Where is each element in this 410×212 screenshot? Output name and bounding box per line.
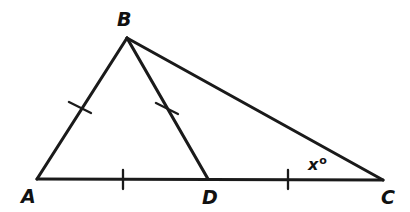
degree-symbol: o: [319, 154, 327, 167]
vertex-label-B: B: [117, 8, 131, 30]
svg-text:xo: xo: [307, 154, 327, 174]
angle-variable: x: [307, 155, 319, 174]
vertex-label-C: C: [381, 186, 395, 208]
geometry-figure: A B D C xo: [0, 0, 410, 212]
segment-base-AC: [37, 179, 383, 180]
geometry-canvas: A B D C xo: [0, 0, 410, 212]
vertex-label-A: A: [19, 185, 36, 207]
vertex-label-D: D: [202, 186, 218, 208]
angle-label-x: xo: [307, 154, 327, 174]
segment-side-BC: [127, 38, 383, 180]
